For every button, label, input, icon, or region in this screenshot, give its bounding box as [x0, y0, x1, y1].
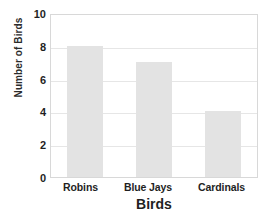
y-axis-tick-label: 8 [18, 41, 46, 52]
x-axis-tick-labels: RobinsBlue JaysCardinals [50, 180, 258, 194]
y-axis-tick-label: 0 [18, 173, 46, 184]
chart-title [0, 0, 268, 5]
bar [136, 62, 172, 177]
x-axis-title: Birds [50, 196, 258, 212]
y-axis-tick-label: 6 [18, 74, 46, 85]
x-axis-tick-label: Cardinals [198, 180, 245, 194]
bar-series [51, 15, 257, 177]
x-axis-tick-label: Blue Jays [124, 180, 172, 194]
y-axis-tick-label: 10 [18, 9, 46, 20]
plot-area [50, 14, 258, 178]
y-axis-tick-label: 2 [18, 140, 46, 151]
x-axis-tick-label: Robins [63, 180, 98, 194]
y-axis-tick-labels: 0246810 [18, 14, 46, 178]
bar-chart-figure: Number of Birds 0246810 RobinsBlue JaysC… [0, 0, 268, 224]
bar [67, 46, 103, 177]
bar [205, 111, 241, 177]
y-axis-tick-label: 4 [18, 107, 46, 118]
